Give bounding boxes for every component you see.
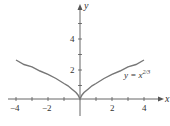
- x-axis-arrow-icon: [158, 97, 164, 102]
- curve-label: y = x2/3: [123, 69, 150, 80]
- x-tick-label: −2: [42, 103, 52, 113]
- chart: −4 −2 2 4 2 4 x y y = x2/3: [0, 0, 170, 126]
- y-tick-label: 4: [70, 34, 75, 44]
- y-axis-label: y: [83, 0, 89, 11]
- x-tick-label: 4: [142, 103, 147, 113]
- y-tick-label: 2: [70, 65, 75, 75]
- y-axis-arrow-icon: [78, 4, 83, 10]
- x-tick-label: −4: [10, 103, 20, 113]
- x-tick-label: 2: [110, 103, 115, 113]
- x-axis-label: x: [164, 93, 170, 104]
